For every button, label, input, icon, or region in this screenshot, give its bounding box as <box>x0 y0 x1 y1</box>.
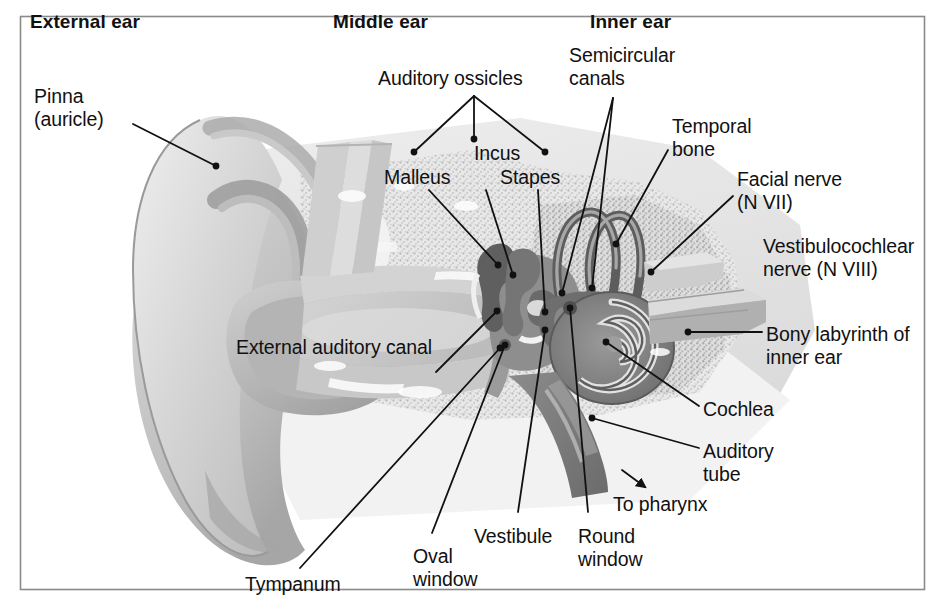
label-external-auditory-canal: External auditory canal <box>236 336 432 359</box>
label-round-window: Roundwindow <box>578 525 642 571</box>
label-round-window-line: window <box>578 548 642 571</box>
label-oval-window-line: Oval <box>413 545 477 568</box>
label-cochlea: Cochlea <box>703 398 774 421</box>
leader-semicircular-b-dot <box>589 285 596 292</box>
leader-vestibule-dot <box>542 327 549 334</box>
leader-facial-nerve-dot <box>648 269 655 276</box>
leader-malleus-dot <box>495 262 502 269</box>
label-external-auditory-canal-line: External auditory canal <box>236 336 432 359</box>
label-oval-window: Ovalwindow <box>413 545 477 591</box>
label-semicircular-canals: Semicircularcanals <box>569 44 675 90</box>
ear-anatomy-figure <box>0 0 945 613</box>
leader-bony-labyrinth-dot <box>685 329 692 336</box>
label-temporal-bone-line: bone <box>672 138 751 161</box>
label-facial-nerve-line: (N VII) <box>737 191 842 214</box>
label-malleus: Malleus <box>384 166 451 189</box>
label-to-pharynx-line: To pharynx <box>613 493 707 516</box>
label-auditory-tube-line: Auditory <box>703 440 774 463</box>
section-heading-inner-ear: Inner ear <box>590 10 671 33</box>
label-semicircular-canals-line: canals <box>569 67 675 90</box>
leader-tympanum-dot <box>497 345 504 352</box>
leader-external-auditory-canal-dot <box>494 308 501 315</box>
leader-pinna-dot <box>213 163 220 170</box>
label-bony-labyrinth: Bony labyrinth ofinner ear <box>766 323 910 369</box>
label-malleus-line: Malleus <box>384 166 451 189</box>
leader-cochlea-dot <box>603 339 610 346</box>
leader-ossicles-right-dot <box>542 149 549 156</box>
leader-temporal-bone-dot <box>613 241 620 248</box>
label-vestibule-line: Vestibule <box>474 525 552 548</box>
leader-stapes-dot <box>542 309 549 316</box>
label-auditory-ossicles-line: Auditory ossicles <box>378 67 523 90</box>
label-incus-line: Incus <box>474 142 520 165</box>
section-heading-middle-ear: Middle ear <box>333 10 428 33</box>
label-temporal-bone-line: Temporal <box>672 115 751 138</box>
label-facial-nerve-line: Facial nerve <box>737 168 842 191</box>
label-vestibulocochlear-nerve-line: Vestibulocochlear <box>763 235 914 258</box>
label-pinna-line: Pinna <box>34 85 104 108</box>
leader-incus-dot <box>510 272 517 279</box>
label-auditory-tube-line: tube <box>703 463 774 486</box>
label-stapes-line: Stapes <box>500 166 560 189</box>
label-vestibulocochlear-nerve-line: nerve (N VIII) <box>763 258 914 281</box>
label-facial-nerve: Facial nerve(N VII) <box>737 168 842 214</box>
label-cochlea-line: Cochlea <box>703 398 774 421</box>
label-temporal-bone: Temporalbone <box>672 115 751 161</box>
label-round-window-line: Round <box>578 525 642 548</box>
label-auditory-tube: Auditorytube <box>703 440 774 486</box>
label-tympanum-line: Tympanum <box>245 573 341 596</box>
ear-anatomy-illustration <box>0 0 945 613</box>
label-bony-labyrinth-line: Bony labyrinth of <box>766 323 910 346</box>
label-pinna-line: (auricle) <box>34 108 104 131</box>
label-to-pharynx: To pharynx <box>613 493 707 516</box>
leader-auditory-tube-dot <box>589 415 596 422</box>
leader-ossicles-left-dot <box>411 149 418 156</box>
label-pinna: Pinna(auricle) <box>34 85 104 131</box>
label-oval-window-line: window <box>413 568 477 591</box>
label-bony-labyrinth-line: inner ear <box>766 346 910 369</box>
label-semicircular-canals-line: Semicircular <box>569 44 675 67</box>
label-auditory-ossicles: Auditory ossicles <box>378 67 523 90</box>
leader-semicircular-a-dot <box>559 290 566 297</box>
label-vestibulocochlear-nerve: Vestibulocochlearnerve (N VIII) <box>763 235 914 281</box>
label-stapes: Stapes <box>500 166 560 189</box>
label-incus: Incus <box>474 142 520 165</box>
label-vestibule: Vestibule <box>474 525 552 548</box>
leader-round-window-dot <box>567 305 574 312</box>
label-tympanum: Tympanum <box>245 573 341 596</box>
section-heading-external-ear: External ear <box>30 10 140 33</box>
